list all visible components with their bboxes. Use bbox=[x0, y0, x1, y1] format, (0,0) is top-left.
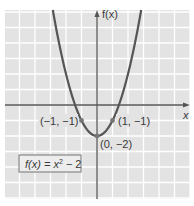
point-0-neg2 bbox=[95, 134, 100, 139]
function-label-rhs: − 2 bbox=[63, 158, 82, 170]
x-axis-label: x bbox=[182, 109, 189, 121]
annotation-0-neg2: (0, −2) bbox=[100, 138, 132, 150]
function-label-lhs: f(x) = x bbox=[25, 158, 59, 170]
annotation-neg1-neg1: (−1, −1) bbox=[40, 115, 79, 127]
point-neg1-neg1 bbox=[79, 118, 84, 123]
annotation-1-neg1: (1, −1) bbox=[118, 115, 150, 127]
y-axis-label: f(x) bbox=[102, 8, 118, 20]
point-1-neg1 bbox=[110, 118, 115, 123]
function-label: f(x) = x2 − 2 bbox=[25, 158, 81, 170]
parabola-chart: x f(x) (−1, −1) (1, −1) (0, −2) f(x) = x… bbox=[0, 0, 194, 206]
